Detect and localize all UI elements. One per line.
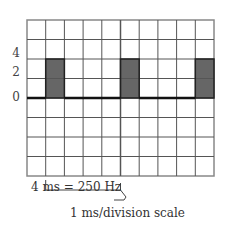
scale-label: 1 ms/division scale: [70, 206, 185, 220]
scope-grid: [0, 0, 228, 235]
y-label-2: 2: [6, 65, 20, 79]
y-label-0: 0: [6, 90, 20, 104]
y-label-4: 4: [6, 46, 20, 60]
period-label: 4 ms = 250 Hz: [31, 180, 121, 194]
